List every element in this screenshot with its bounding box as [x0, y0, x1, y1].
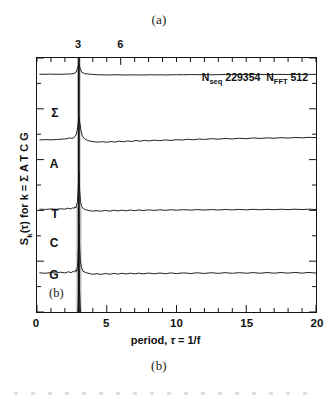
trace-label-sigma: Σ [36, 106, 58, 120]
x-axis-title: period, τ = 1/f [0, 334, 331, 346]
spectra-plot-svg [37, 58, 316, 312]
spectra-traces [40, 58, 316, 312]
trace-label-g: G [36, 268, 58, 282]
y-axis-title: Sk(τ) for k = Σ A T C G [18, 69, 33, 309]
y-axis-title-suffix: (τ) for k = Σ A T C G [18, 132, 30, 233]
top-axis-tick-label-6: 6 [110, 38, 130, 50]
plot-area: Nseq 229354 NFFT 512 (b) [36, 57, 317, 313]
trace-label-c: C [36, 236, 58, 250]
trace-label-a: A [36, 157, 58, 171]
y-axis-title-sub: k [25, 233, 34, 237]
x-axis-tick-label-5: 5 [94, 317, 118, 329]
x-axis-tick-label-0: 0 [24, 317, 48, 329]
x-axis-tick-label-15: 15 [235, 317, 259, 329]
x-axis-tick-label-20: 20 [305, 317, 329, 329]
trace-label-t: T [36, 207, 58, 221]
scan-artifact [14, 392, 319, 395]
x-axis-tick-label-10: 10 [165, 317, 189, 329]
right-axis-ticks [309, 58, 316, 312]
y-axis-title-prefix: S [18, 238, 30, 245]
panel-letter-b: (b) [139, 358, 179, 374]
spectral-figure: (a) 3 6 Sk(τ) for k = Σ A T C G Nseq 229… [0, 0, 331, 402]
x-axis-title-suffix: = 1/f [175, 334, 200, 346]
panel-letter-a: (a) [139, 12, 179, 28]
x-axis-title-prefix: period, [131, 334, 171, 346]
top-axis-tick-label-3: 3 [68, 38, 88, 50]
